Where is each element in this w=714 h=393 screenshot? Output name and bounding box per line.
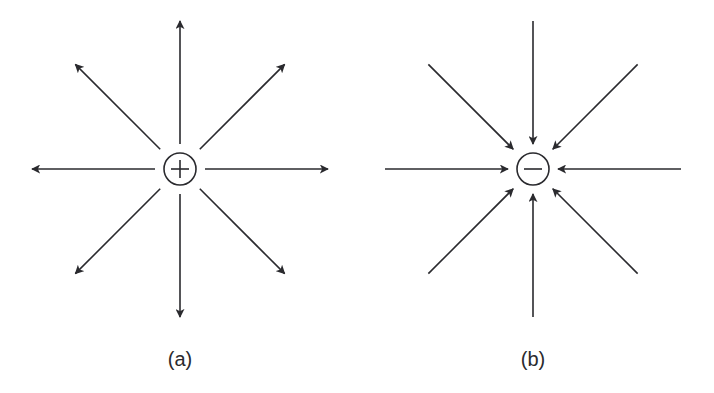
field-line-arrow-down-right — [553, 189, 638, 274]
field-line-arrow-up-right — [553, 64, 638, 149]
panel-b-negative-charge: (b) — [385, 21, 681, 370]
field-line-arrow-up-left — [75, 64, 160, 149]
field-line-arrow-down-left — [428, 189, 513, 274]
field-line-arrow-down-right — [200, 189, 285, 274]
field-line-arrow-up-left — [428, 64, 513, 149]
panel-label-b: (b) — [521, 348, 545, 370]
field-line-arrow-down-left — [75, 189, 160, 274]
panel-a-positive-charge: (a) — [32, 21, 328, 370]
field-line-arrow-up-right — [200, 64, 285, 149]
panel-label-a: (a) — [168, 348, 192, 370]
field-lines-diagram: (a) (b) — [0, 0, 714, 393]
